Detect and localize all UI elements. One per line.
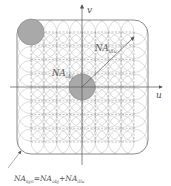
na-illu-label: NAillu <box>94 43 117 54</box>
synthetic-na-equation: NAsyn=NAobj+NAillu <box>13 174 85 184</box>
equation-pointer <box>8 151 21 168</box>
na-obj-label: NAobj <box>51 68 74 80</box>
synthetic-aperture-diagram: u v NAillu NAobj NAsyn=NAobj+NAillu <box>0 0 171 186</box>
v-axis-label: v <box>87 5 92 15</box>
u-axis-label: u <box>156 90 162 100</box>
illumination-pupil-corner <box>18 19 44 45</box>
